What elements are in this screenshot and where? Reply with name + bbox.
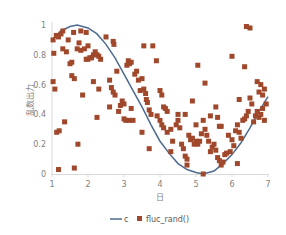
legend-square-icon [137,216,142,221]
data-point [262,118,267,123]
chart: 00.20.40.60.81 1234567 乱数出力 日 c fluc_ran… [0,0,286,235]
data-point [143,91,148,96]
data-point [260,93,265,98]
data-point [219,124,224,129]
data-point [129,60,134,65]
data-point [72,76,77,81]
data-point [78,28,83,33]
data-point [204,133,209,138]
x-axis-title: 日 [156,193,164,202]
data-point [226,133,231,138]
data-point [190,98,195,103]
data-point [246,109,251,114]
data-point [145,100,150,105]
data-point [147,146,152,151]
x-tick-label: 1 [49,180,54,189]
data-point [231,143,236,148]
data-point [249,101,254,106]
data-point [213,148,218,153]
legend: c fluc_rand() [110,215,189,224]
series-fluc-rand-points [51,24,269,177]
data-point [244,113,249,118]
data-point [203,127,208,132]
data-point [237,130,242,135]
data-point [258,112,263,117]
data-point [185,163,190,168]
data-point [264,101,269,106]
data-point [75,142,80,147]
data-point [129,106,134,111]
data-point [168,127,173,132]
data-point [107,78,112,83]
y-tick-label: 0.8 [33,51,46,60]
data-point [116,109,121,114]
data-point [86,43,91,48]
data-point [107,104,112,109]
data-point [195,63,200,68]
y-tick-label: 0.4 [33,110,46,119]
data-point [56,167,61,172]
data-point [203,81,208,86]
data-point [84,30,89,35]
y-tick-label: 0.2 [33,140,46,149]
data-point [235,161,240,166]
data-point [248,25,253,30]
data-point [62,119,67,124]
data-point [206,139,211,144]
x-tick-label: 6 [229,180,234,189]
data-point [208,149,213,154]
y-axis-ticks: 00.20.40.60.81 [33,21,46,179]
x-tick-label: 4 [157,180,162,189]
data-point [80,93,85,98]
data-point [179,142,184,147]
data-point [140,76,145,81]
data-point [197,139,202,144]
data-point [51,51,56,56]
data-point [237,97,242,102]
data-point [208,113,213,118]
data-point [66,37,71,42]
data-point [141,87,146,92]
data-point [248,96,253,101]
data-point [113,93,118,98]
data-point [215,115,220,120]
data-point [251,119,256,124]
x-tick-label: 3 [121,180,126,189]
data-point [199,131,204,136]
data-point [71,30,76,35]
data-point [122,101,127,106]
data-point [181,146,186,151]
data-point [212,142,217,147]
y-tick-label: 1 [41,21,46,30]
data-point [147,107,152,112]
data-point [201,118,206,123]
data-point [177,125,182,130]
data-point [239,136,244,141]
data-point [154,58,159,63]
data-point [149,112,154,117]
data-point [165,109,170,114]
data-point [235,122,240,127]
data-point [51,79,56,84]
data-point [230,137,235,142]
data-point [158,118,163,123]
data-point [161,125,166,130]
data-point [158,88,163,93]
x-tick-label: 5 [193,180,198,189]
y-tick-label: 0 [41,170,46,179]
data-point [155,113,160,118]
data-point [221,160,226,165]
data-point [91,79,96,84]
data-point [140,130,145,135]
data-point [95,115,100,120]
data-point [228,149,233,154]
data-point [104,34,109,39]
y-tick-label: 0.6 [33,81,46,90]
legend-label-c: c [124,215,128,224]
data-point [176,112,181,117]
x-tick-label: 2 [85,180,90,189]
data-point [51,37,56,42]
data-point [96,87,101,92]
data-point [262,87,267,92]
data-point [98,57,103,62]
